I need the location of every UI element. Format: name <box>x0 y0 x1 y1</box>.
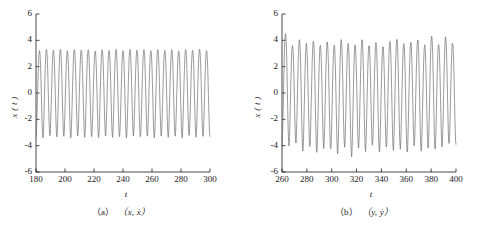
y-tick-label: -2 <box>256 113 278 123</box>
y-tick-label: 2 <box>256 61 278 71</box>
y-tick-label: 6 <box>10 8 32 18</box>
series-line-a <box>36 49 210 138</box>
x-axis-label-b-text: t <box>370 189 373 199</box>
y-tick-label: -4 <box>256 140 278 150</box>
caption-a-vars: （x, ẋ） <box>118 207 150 217</box>
series-line-b <box>282 34 456 157</box>
figure-container: x ( t ) 6420-2-4-6 180200220240260280300… <box>0 0 485 230</box>
caption-a-label: （a） <box>92 207 115 217</box>
x-tick-label: 200 <box>50 174 80 184</box>
y-tick-label: 4 <box>10 34 32 44</box>
y-tick-label: 4 <box>256 34 278 44</box>
caption-b: （b）（y, ẏ） <box>243 205 485 218</box>
x-axis-label-b: t <box>351 189 391 199</box>
x-axis-label-a: t <box>106 189 146 199</box>
x-tick-label: 280 <box>166 174 196 184</box>
y-tick-label: -4 <box>10 140 32 150</box>
caption-b-label: （b） <box>335 207 358 217</box>
x-tick-label: 300 <box>195 174 225 184</box>
x-tick-label: 260 <box>137 174 167 184</box>
y-tick-label: 2 <box>10 61 32 71</box>
caption-a: （a）（x, ẋ） <box>0 205 242 218</box>
x-tick-label: 220 <box>79 174 109 184</box>
x-axis-label-a-text: t <box>125 189 128 199</box>
y-tick-label: 0 <box>256 87 278 97</box>
x-tick-label: 180 <box>21 174 51 184</box>
y-tick-label: -2 <box>10 113 32 123</box>
y-tick-label: 6 <box>256 8 278 18</box>
chart-panel-b: x ( t ) 6420-2-4-6 260280300320340360380… <box>243 0 485 230</box>
y-tick-label: 0 <box>10 87 32 97</box>
x-tick-label: 240 <box>108 174 138 184</box>
chart-panel-a: x ( t ) 6420-2-4-6 180200220240260280300… <box>0 0 242 230</box>
caption-b-vars: （y, ẏ） <box>362 207 393 217</box>
x-tick-label: 400 <box>441 174 471 184</box>
